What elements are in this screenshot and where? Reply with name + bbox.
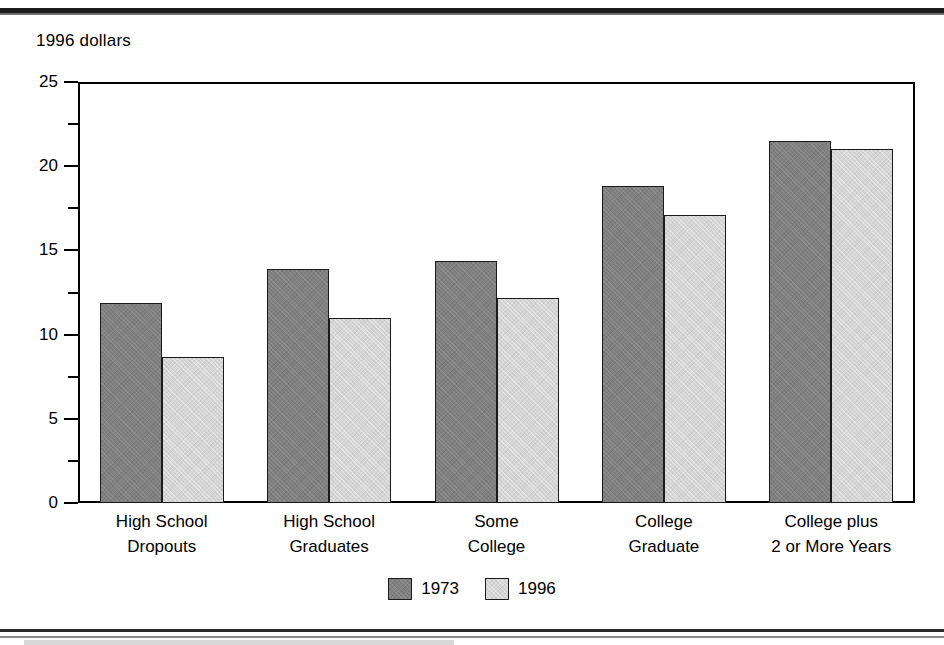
legend-swatch-1973-icon <box>388 578 412 600</box>
chart-legend: 1973 1996 <box>0 578 944 600</box>
x-axis-label-3: SomeCollege <box>413 509 580 559</box>
x-axis-label-line: College <box>413 534 580 559</box>
bar-1996-5[interactable] <box>831 149 893 503</box>
page-rule-top-secondary <box>0 13 944 15</box>
caption-stub <box>24 640 454 645</box>
bar-1973-4[interactable] <box>602 186 664 503</box>
bar-1996-1[interactable] <box>162 357 224 504</box>
bar-1973-2[interactable] <box>267 269 329 503</box>
y-axis-tick-label: 0 <box>20 493 58 513</box>
bar-1996-4[interactable] <box>664 215 726 503</box>
y-axis-tick-major <box>64 502 78 504</box>
bar-1973-1[interactable] <box>100 303 162 503</box>
x-axis-label-line: Some <box>413 509 580 534</box>
x-axis-label-line: High School <box>245 509 412 534</box>
y-axis-tick-major <box>64 165 78 167</box>
x-axis-label-line: College <box>580 509 747 534</box>
x-axis-label-line: Dropouts <box>78 534 245 559</box>
legend-swatch-1996-icon <box>485 578 509 600</box>
y-axis-tick-label: 20 <box>20 156 58 176</box>
x-axis-label-line: Graduates <box>245 534 412 559</box>
bar-group <box>435 82 559 503</box>
bar-group <box>100 82 224 503</box>
bar-1996-3[interactable] <box>497 298 559 503</box>
bar-group <box>769 82 893 503</box>
page-rule-bottom <box>0 629 944 632</box>
x-axis-category-labels: High SchoolDropoutsHigh SchoolGraduatesS… <box>78 509 915 569</box>
legend-item-1996[interactable]: 1996 <box>485 578 556 600</box>
x-axis-label-2: High SchoolGraduates <box>245 509 412 559</box>
legend-label-1973: 1973 <box>421 579 459 599</box>
y-axis-tick-major <box>64 249 78 251</box>
y-axis-tick-label: 5 <box>20 409 58 429</box>
y-axis-tick-minor <box>68 292 78 294</box>
x-axis-label-4: CollegeGraduate <box>580 509 747 559</box>
bar-1973-3[interactable] <box>435 261 497 503</box>
legend-label-1996: 1996 <box>518 579 556 599</box>
y-axis-title: 1996 dollars <box>36 31 131 51</box>
bars-layer <box>78 82 915 503</box>
chart-page: 1996 dollars 0510152025 High SchoolDropo… <box>0 0 944 645</box>
y-axis-tick-minor <box>68 460 78 462</box>
x-axis-label-line: High School <box>78 509 245 534</box>
bar-1973-5[interactable] <box>769 141 831 503</box>
y-axis-tick-minor <box>68 376 78 378</box>
bar-group <box>602 82 726 503</box>
y-axis-tick-minor <box>68 207 78 209</box>
bar-group <box>267 82 391 503</box>
page-rule-bottom-secondary <box>0 636 944 638</box>
y-axis-tick-minor <box>68 123 78 125</box>
x-axis-label-line: Graduate <box>580 534 747 559</box>
x-axis-label-5: College plus2 or More Years <box>748 509 915 559</box>
x-axis-label-line: 2 or More Years <box>748 534 915 559</box>
x-axis-label-1: High SchoolDropouts <box>78 509 245 559</box>
y-axis-tick-major <box>64 418 78 420</box>
y-axis-tick-major <box>64 81 78 83</box>
y-axis-tick-label: 10 <box>20 325 58 345</box>
y-axis-tick-label: 15 <box>20 240 58 260</box>
legend-item-1973[interactable]: 1973 <box>388 578 459 600</box>
bar-1996-2[interactable] <box>329 318 391 503</box>
y-axis-tick-major <box>64 334 78 336</box>
y-axis-tick-label: 25 <box>20 72 58 92</box>
x-axis-label-line: College plus <box>748 509 915 534</box>
